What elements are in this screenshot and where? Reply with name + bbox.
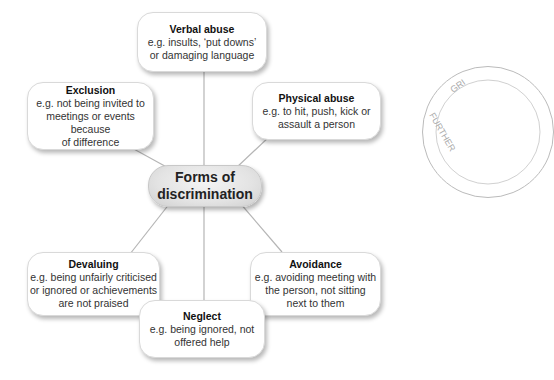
node-physical-abuse: Physical abuse e.g. to hit, push, kick o… [252, 82, 381, 140]
node-text: assault a person [278, 118, 355, 131]
node-title: Neglect [183, 310, 221, 323]
node-text: or damaging language [150, 49, 255, 62]
node-text: next to them [287, 297, 345, 310]
node-text: e.g. being ignored, not [150, 323, 255, 336]
node-neglect: Neglect e.g. being ignored, not offered … [139, 300, 265, 358]
node-verbal-abuse: Verbal abuse e.g. insults, ‘put downs’ o… [137, 12, 267, 72]
node-text: the person, not sitting [265, 284, 365, 297]
node-avoidance: Avoidance e.g. avoiding meeting with the… [250, 252, 381, 316]
node-text: e.g. insults, ‘put downs’ [148, 36, 257, 49]
node-title: Exclusion [66, 84, 116, 97]
center-line-2: discrimination [157, 186, 253, 203]
node-text: meetings or events because [28, 110, 153, 136]
node-text: e.g. avoiding meeting with [255, 271, 376, 284]
node-devaluing: Devaluing e.g. being unfairly criticised… [27, 252, 160, 316]
node-title: Physical abuse [279, 92, 355, 105]
center-node: Forms of discrimination [148, 165, 262, 207]
node-text: offered help [174, 336, 229, 349]
node-text: of difference [62, 136, 120, 149]
stamp-text-top: GRI [448, 77, 467, 94]
node-text: e.g. not being invited to [36, 97, 145, 110]
node-text: are not praised [58, 297, 128, 310]
node-title: Avoidance [289, 258, 342, 271]
node-text: e.g. to hit, push, kick or [263, 105, 371, 118]
college-stamp: GRI FURTHER [422, 66, 554, 198]
center-line-1: Forms of [175, 169, 235, 186]
node-text: or ignored or achievements [30, 284, 157, 297]
node-exclusion: Exclusion e.g. not being invited to meet… [27, 82, 154, 150]
stamp-text-side: FURTHER [427, 111, 457, 154]
node-title: Verbal abuse [170, 23, 235, 36]
node-title: Devaluing [68, 258, 118, 271]
node-text: e.g. being unfairly criticised [30, 271, 157, 284]
